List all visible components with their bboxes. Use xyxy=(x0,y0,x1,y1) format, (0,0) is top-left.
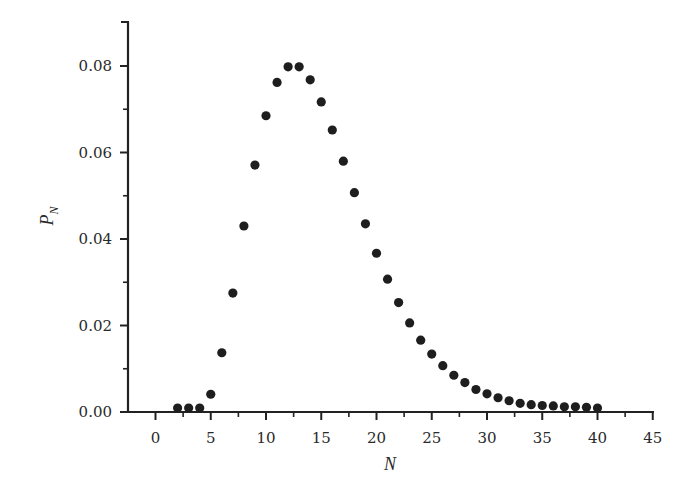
y-axis-label-main: P xyxy=(37,215,57,227)
axes: 051015202530354045 0.000.020.040.060.08 xyxy=(79,22,663,447)
data-point xyxy=(516,399,525,408)
data-point xyxy=(449,371,458,380)
data-point xyxy=(217,348,226,357)
data-point xyxy=(560,402,569,411)
data-point xyxy=(593,403,602,412)
x-tick-label: 40 xyxy=(588,429,607,447)
data-point xyxy=(272,78,281,87)
data-point xyxy=(460,378,469,387)
data-point xyxy=(261,111,270,120)
data-point xyxy=(482,389,491,398)
x-ticks: 051015202530354045 xyxy=(151,412,663,447)
data-point xyxy=(438,361,447,370)
data-point xyxy=(505,396,514,405)
data-point xyxy=(527,400,536,409)
data-point xyxy=(405,318,414,327)
scatter-chart: 051015202530354045 0.000.020.040.060.08 … xyxy=(0,0,698,498)
y-tick-label: 0.04 xyxy=(79,230,112,248)
y-ticks: 0.000.020.040.060.08 xyxy=(79,57,128,421)
data-points xyxy=(173,62,602,412)
y-tick-label: 0.00 xyxy=(79,403,112,421)
data-point xyxy=(239,221,248,230)
y-tick-label: 0.08 xyxy=(79,57,112,75)
data-point xyxy=(250,160,259,169)
data-point xyxy=(350,188,359,197)
data-point xyxy=(394,298,403,307)
x-tick-label: 10 xyxy=(256,429,275,447)
data-point xyxy=(339,157,348,166)
data-point xyxy=(284,62,293,71)
x-tick-label: 20 xyxy=(367,429,386,447)
data-point xyxy=(427,349,436,358)
x-tick-label: 30 xyxy=(477,429,496,447)
data-point xyxy=(228,288,237,297)
data-point xyxy=(571,402,580,411)
y-axis-label-subscript: N xyxy=(47,206,61,216)
data-point xyxy=(328,125,337,134)
data-point xyxy=(361,219,370,228)
x-tick-label: 45 xyxy=(643,429,662,447)
data-point xyxy=(549,401,558,410)
x-tick-label: 25 xyxy=(422,429,441,447)
data-point xyxy=(493,393,502,402)
x-axis-label: N xyxy=(383,454,397,474)
x-tick-label: 15 xyxy=(312,429,331,447)
data-point xyxy=(383,275,392,284)
data-point xyxy=(317,97,326,106)
data-point xyxy=(471,385,480,394)
data-point xyxy=(582,403,591,412)
y-tick-label: 0.02 xyxy=(79,317,112,335)
data-point xyxy=(306,75,315,84)
x-tick-label: 5 xyxy=(206,429,216,447)
data-point xyxy=(538,401,547,410)
data-point xyxy=(173,403,182,412)
data-point xyxy=(295,62,304,71)
data-point xyxy=(184,403,193,412)
data-point xyxy=(416,336,425,345)
x-tick-label: 0 xyxy=(151,429,161,447)
x-tick-label: 35 xyxy=(533,429,552,447)
data-point xyxy=(372,249,381,258)
y-axis-label: PN xyxy=(37,206,61,227)
data-point xyxy=(195,403,204,412)
data-point xyxy=(206,390,215,399)
y-tick-label: 0.06 xyxy=(79,144,112,162)
